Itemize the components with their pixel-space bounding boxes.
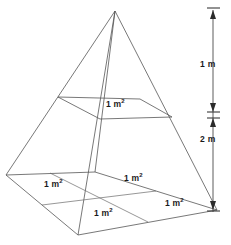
area-label-base-right: 1 m2 bbox=[124, 174, 143, 183]
area-label-base-left-base: 1 m bbox=[44, 179, 59, 189]
area-label-base-left-exponent: 2 bbox=[59, 178, 63, 184]
arrowhead-up-top bbox=[210, 10, 216, 19]
arrowhead-down-upper bbox=[210, 103, 216, 112]
dimension-line-group bbox=[207, 8, 220, 212]
area-label-base-front-exponent: 2 bbox=[109, 207, 113, 213]
area-label-base-far-right: 1 m2 bbox=[165, 199, 184, 208]
area-label-upper-tier: 1 m2 bbox=[106, 100, 125, 109]
area-label-base-front-base: 1 m bbox=[94, 208, 109, 218]
base-grid-line-b bbox=[42, 191, 156, 205]
pyramid-diagram: 1 m2 1 m2 1 m2 1 m2 1 m2 1 m 2 m bbox=[0, 0, 231, 245]
dimension-label-upper-height: 1 m bbox=[200, 60, 216, 69]
edge-apex-to-left bbox=[6, 11, 115, 175]
dimension-label-lower-height: 2 m bbox=[200, 135, 216, 144]
area-label-upper-tier-exponent: 2 bbox=[121, 98, 125, 104]
area-label-base-far-right-base: 1 m bbox=[165, 198, 180, 208]
area-label-base-far-right-exponent: 2 bbox=[180, 197, 184, 203]
edge-apex-to-back bbox=[95, 11, 115, 172]
area-label-base-front: 1 m2 bbox=[94, 209, 113, 218]
area-label-base-right-exponent: 2 bbox=[139, 172, 143, 178]
area-label-base-right-base: 1 m bbox=[124, 173, 139, 183]
area-label-upper-tier-base: 1 m bbox=[106, 99, 121, 109]
area-label-base-left: 1 m2 bbox=[44, 180, 63, 189]
pyramid-wireframe bbox=[0, 0, 231, 245]
arrowhead-up-lower bbox=[210, 118, 216, 127]
edge-apex-to-front bbox=[78, 11, 115, 235]
